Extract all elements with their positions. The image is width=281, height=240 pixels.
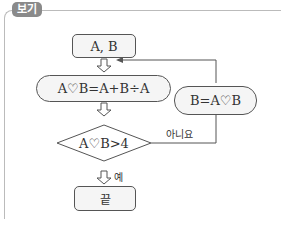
update-box: B=A♡B	[174, 86, 257, 115]
start-box: A, B	[72, 34, 136, 58]
down-arrow-icon	[97, 171, 111, 184]
no-label: 아니요	[166, 126, 193, 141]
end-box: 끝	[74, 186, 136, 211]
down-arrow-icon	[97, 59, 111, 72]
down-arrow-icon	[97, 103, 111, 116]
yes-label: 예	[114, 169, 123, 184]
process-box: A♡B=A+B÷A	[36, 75, 171, 102]
decision-label: A♡B>4	[70, 133, 138, 153]
